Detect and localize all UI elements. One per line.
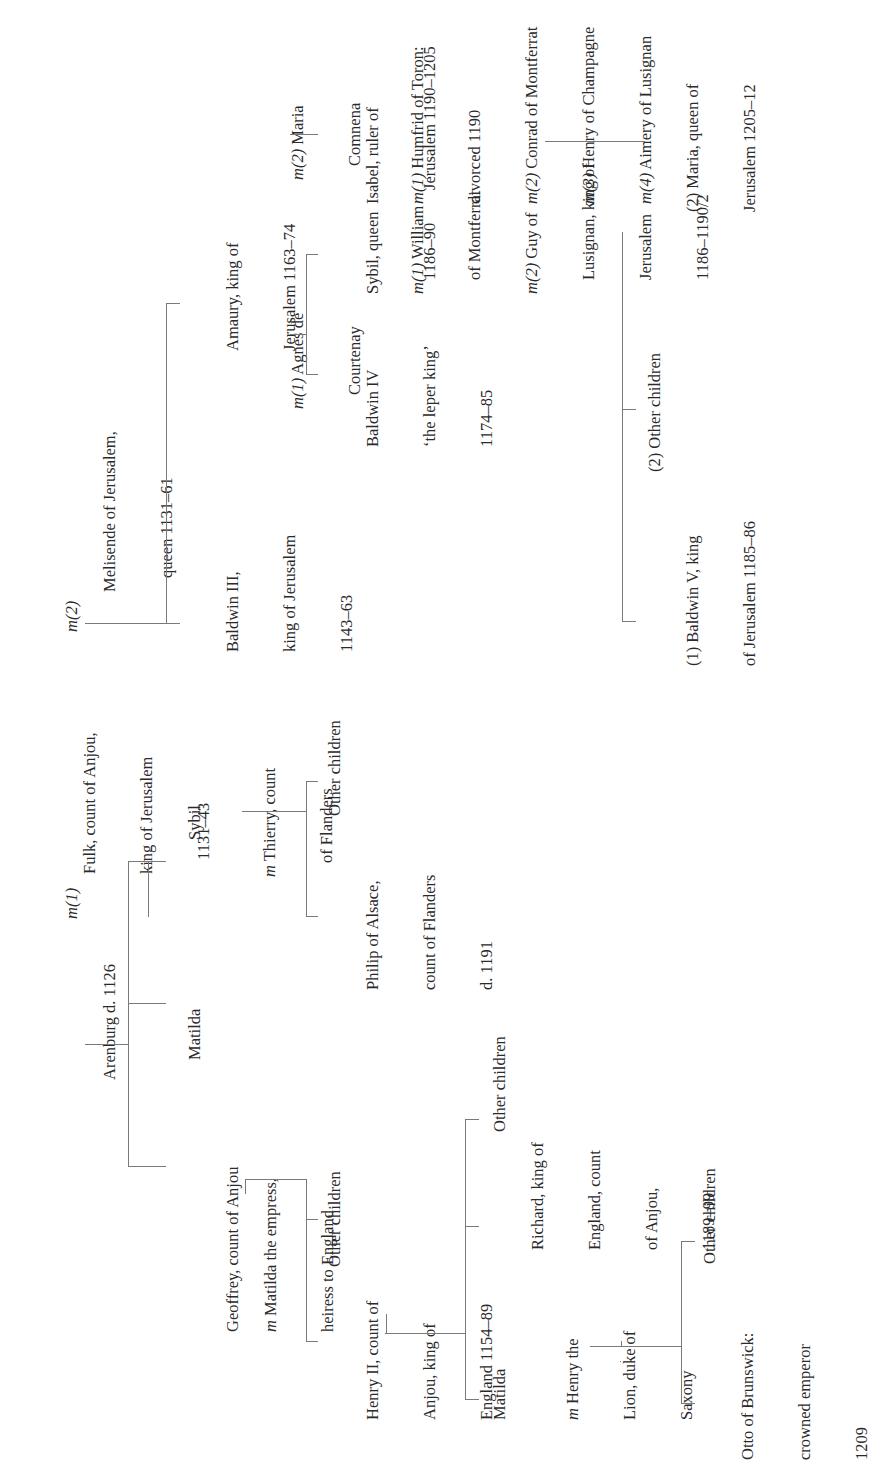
connector [386, 1314, 387, 1334]
connector [128, 1166, 166, 1167]
maria-line-1: (2) Maria, queen of [683, 84, 702, 212]
connector [590, 1346, 682, 1347]
connector [306, 374, 318, 375]
connector [148, 861, 149, 917]
sybil-other-children: Other children [325, 720, 344, 816]
baldwin4-node: Baldwin IV ‘the leper king’ 1174–85 [325, 345, 534, 447]
matilda-spouse-line-1: Henry the [563, 1338, 582, 1404]
connector [465, 1399, 479, 1400]
baldwin4-line-1: Baldwin IV [363, 345, 382, 447]
connector [128, 861, 166, 862]
connector [306, 782, 307, 917]
maria-node: (2) Maria, queen of Jerusalem 1205–12 [645, 84, 797, 212]
philip-line-1: Philip of Alsace, [363, 875, 382, 990]
fulk-node: Fulk, count of Anjou, king of Jerusalem … [42, 732, 251, 874]
connector [622, 272, 623, 410]
fulk-line-3: 1131–43 [194, 732, 213, 874]
connector [621, 1341, 622, 1347]
connector [306, 916, 318, 917]
amaury-wife1-line-1: Agnes de [288, 313, 307, 375]
marriage-text: William [408, 206, 427, 259]
matilda-saxony-node: Matilda [490, 1369, 509, 1420]
fulk-line-1: Fulk, count of Anjou, [80, 732, 99, 874]
connector [245, 1180, 246, 1194]
arenburg-name: Arenburg d. 1126 [100, 964, 119, 1080]
connector [620, 1361, 621, 1362]
marriage-label-1: m(1) [62, 888, 81, 919]
otto-line-2: crowned emperor [795, 1333, 814, 1460]
connector [166, 304, 167, 624]
baldwin3-line-3: 1143–63 [337, 535, 356, 652]
otto-node: Otto of Brunswick: crowned emperor 1209 [700, 1333, 872, 1460]
connector [242, 811, 306, 812]
marriage-label-2: m(2) [62, 601, 81, 632]
baldwin3-node: Baldwin III, king of Jerusalem 1143–63 [185, 535, 394, 652]
connector [290, 134, 318, 135]
connector [622, 621, 636, 622]
philip-line-3: d. 1191 [477, 875, 496, 990]
matilda-spouse-line-2: Lion, duke of [620, 1331, 639, 1420]
connector [681, 1242, 682, 1404]
marriage-text: Conrad of Montferrat [522, 27, 541, 169]
connector [128, 861, 129, 1167]
otto-line-1: Otto of Brunswick: [738, 1333, 757, 1460]
matilda-node: Matilda [185, 1009, 204, 1060]
baldwin4-line-3: 1174–85 [477, 345, 496, 447]
connector [290, 334, 306, 335]
baldwin5-node: (1) Baldwin V, king of Jerusalem 1185–86 [645, 521, 797, 666]
baldwin4-line-2: ‘the leper king’ [420, 345, 439, 447]
connector [545, 141, 546, 142]
connector [166, 304, 167, 324]
maria-line-2: Jerusalem 1205–12 [740, 84, 759, 212]
marriage-prefix: m [563, 1408, 582, 1420]
geoffrey-other-children: Other children [325, 1171, 344, 1267]
marriage-prefix: m [260, 865, 279, 877]
connector [681, 1241, 695, 1242]
marriage-text: Henry of Champagne [579, 27, 598, 169]
connector [85, 1044, 129, 1045]
connector [128, 623, 167, 624]
sybil-spouse-line-1: Thierry, count [260, 768, 279, 861]
sybil-spouse-node: m Thierry, count of Flanders [222, 768, 374, 877]
marriage-text: divorced 1190 [465, 27, 484, 204]
connector [622, 409, 636, 410]
connector [465, 1119, 479, 1120]
connector [128, 1003, 166, 1004]
marriage-prefix: m(1) [288, 378, 307, 409]
richard-line-1: Richard, king of [528, 1142, 547, 1250]
baldwin5-line-1: (1) Baldwin V, king [683, 521, 702, 666]
philip-node: Philip of Alsace, count of Flanders d. 1… [325, 875, 534, 990]
arenburg-node: Arenburg d. 1126 [62, 964, 157, 1080]
marriage-prefix: m(1) [408, 263, 427, 294]
marriage-prefix: m(2) [288, 149, 307, 180]
connector [245, 1179, 307, 1180]
richard-line-3: of Anjou, [642, 1142, 661, 1250]
connector [681, 1403, 695, 1404]
amaury-wife2-line-1: Maria [288, 105, 307, 144]
connector [166, 623, 180, 624]
marriage-prefix: m(1) [408, 173, 427, 204]
connector [306, 781, 318, 782]
connector [465, 1226, 479, 1227]
connector [430, 1333, 466, 1334]
connector [306, 1341, 318, 1342]
marriage-text: Humfrid of Toron: [408, 46, 427, 168]
connector [465, 1120, 466, 1400]
fulk-line-2: king of Jerusalem [137, 732, 156, 874]
amaury-line-1: Amaury, king of [223, 224, 242, 365]
connector [306, 1180, 307, 1342]
henry2-line-1: Henry II, count of [363, 1301, 382, 1420]
philip-line-2: count of Flanders [420, 875, 439, 990]
connector [306, 1219, 318, 1220]
marriage-prefix: m(2) [522, 263, 541, 294]
connector [545, 141, 645, 142]
marriage-prefix: m [261, 1320, 280, 1332]
geoffrey-spouse-line-1: Matilda the empress, [261, 1178, 280, 1316]
connector [306, 255, 307, 375]
baldwin3-line-2: king of Jerusalem [280, 535, 299, 652]
connector [622, 232, 623, 272]
henry2-line-2: Anjou, king of [420, 1301, 439, 1420]
marriage-prefix: m(2) [522, 173, 541, 204]
connector [85, 623, 129, 624]
